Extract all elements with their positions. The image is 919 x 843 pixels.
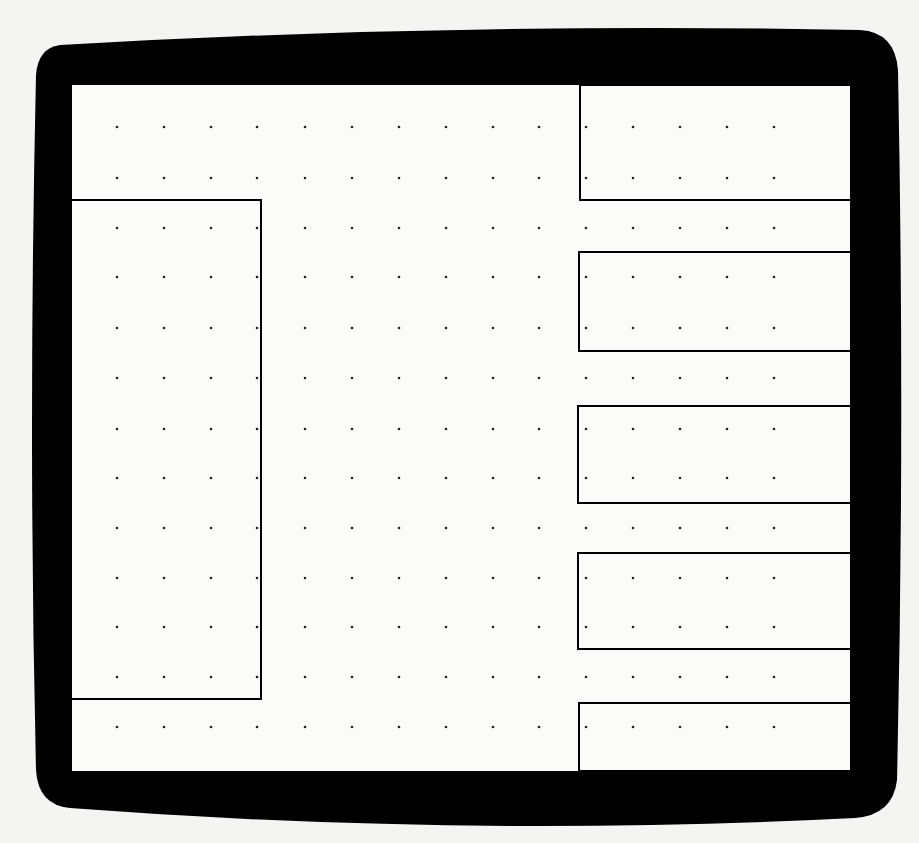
grid-dot	[210, 626, 213, 629]
grid-dot	[256, 577, 259, 580]
grid-dot	[116, 126, 119, 129]
grid-dot	[304, 726, 307, 729]
grid-dot	[304, 177, 307, 180]
grid-dot	[632, 177, 635, 180]
grid-dot	[351, 676, 354, 679]
grid-dot	[585, 428, 588, 431]
grid-dot	[773, 676, 776, 679]
grid-dot	[304, 126, 307, 129]
grid-dot	[351, 527, 354, 530]
grid-dot	[304, 227, 307, 230]
grid-dot	[726, 227, 729, 230]
grid-dot	[679, 327, 682, 330]
grid-dot	[256, 126, 259, 129]
grid-dot	[773, 227, 776, 230]
grid-dot	[773, 428, 776, 431]
grid-dot	[632, 126, 635, 129]
grid-dot	[351, 126, 354, 129]
grid-dot	[398, 177, 401, 180]
grid-dot	[632, 527, 635, 530]
grid-dot	[210, 177, 213, 180]
grid-dot	[256, 726, 259, 729]
grid-dot	[163, 177, 166, 180]
grid-dot	[398, 327, 401, 330]
grid-dot	[538, 676, 541, 679]
grid-dot	[492, 377, 495, 380]
grid-dot	[632, 227, 635, 230]
grid-dot	[304, 527, 307, 530]
grid-dot	[679, 126, 682, 129]
grid-dot	[679, 676, 682, 679]
grid-dot	[492, 626, 495, 629]
grid-dot	[492, 276, 495, 279]
grid-dot	[585, 527, 588, 530]
grid-dot	[304, 428, 307, 431]
grid-dot	[726, 327, 729, 330]
grid-dot	[585, 327, 588, 330]
grid-dot	[585, 276, 588, 279]
grid-dot	[210, 527, 213, 530]
grid-dot	[726, 726, 729, 729]
grid-dot	[163, 477, 166, 480]
grid-dot	[116, 726, 119, 729]
grid-dot	[304, 276, 307, 279]
grid-dot	[445, 626, 448, 629]
grid-dot	[538, 477, 541, 480]
grid-dot	[538, 276, 541, 279]
grid-dot	[679, 726, 682, 729]
grid-dot	[492, 126, 495, 129]
grid-dot	[445, 177, 448, 180]
grid-dot	[304, 477, 307, 480]
grid-dot	[351, 477, 354, 480]
grid-dot	[492, 428, 495, 431]
grid-dot	[398, 126, 401, 129]
grid-dot	[116, 227, 119, 230]
grid-dot	[256, 527, 259, 530]
grid-dot	[726, 527, 729, 530]
grid-dot	[445, 227, 448, 230]
grid-dot	[304, 377, 307, 380]
grid-dot	[163, 527, 166, 530]
grid-dot	[585, 477, 588, 480]
grid-dot	[351, 327, 354, 330]
grid-dot	[773, 626, 776, 629]
screen-surface	[72, 85, 850, 771]
grid-dot	[398, 428, 401, 431]
grid-dot	[210, 327, 213, 330]
grid-dot	[256, 177, 259, 180]
grid-dot	[538, 527, 541, 530]
grid-dot	[351, 227, 354, 230]
grid-dot	[679, 428, 682, 431]
grid-dot	[773, 726, 776, 729]
grid-dot	[116, 377, 119, 380]
grid-dot	[538, 726, 541, 729]
grid-dot	[398, 477, 401, 480]
grid-dot	[304, 676, 307, 679]
grid-dot	[304, 327, 307, 330]
grid-dot	[585, 726, 588, 729]
grid-dot	[679, 227, 682, 230]
grid-dot	[773, 177, 776, 180]
grid-dot	[445, 428, 448, 431]
grid-dot	[116, 428, 119, 431]
grid-dot	[445, 126, 448, 129]
grid-dot	[210, 126, 213, 129]
grid-dot	[445, 527, 448, 530]
grid-dot	[351, 428, 354, 431]
grid-dot	[726, 626, 729, 629]
grid-dot	[351, 626, 354, 629]
grid-dot	[445, 276, 448, 279]
grid-dot	[210, 477, 213, 480]
grid-dot	[163, 626, 166, 629]
grid-dot	[538, 177, 541, 180]
grid-dot	[726, 177, 729, 180]
grid-dot	[351, 377, 354, 380]
grid-dot	[398, 276, 401, 279]
grid-dot	[116, 327, 119, 330]
grid-dot	[492, 227, 495, 230]
grid-dot	[632, 327, 635, 330]
grid-dot	[304, 626, 307, 629]
grid-dot	[163, 327, 166, 330]
grid-dot	[538, 227, 541, 230]
grid-dot	[210, 276, 213, 279]
